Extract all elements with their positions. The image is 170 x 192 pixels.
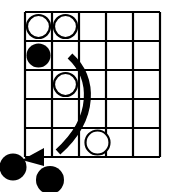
move-arrow (22, 56, 87, 166)
board-diagram (0, 0, 170, 192)
white-stone-r1c1[interactable] (27, 15, 50, 38)
captured-black-stone-1[interactable] (0, 154, 27, 181)
board-diagram-canvas (0, 0, 170, 192)
stones-layer (27, 15, 110, 155)
white-stone-r3c2[interactable] (54, 73, 77, 96)
white-stone-r5c3[interactable] (86, 131, 110, 155)
black-stone-r2c1[interactable] (27, 44, 51, 68)
white-stone-r1c2[interactable] (54, 15, 77, 38)
captured-black-stone-2[interactable] (36, 166, 64, 192)
